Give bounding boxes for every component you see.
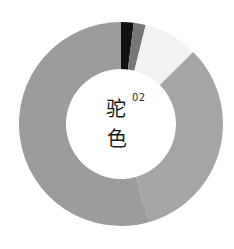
- donut-slice-light-gray: [136, 52, 223, 222]
- donut-chart: [0, 0, 234, 249]
